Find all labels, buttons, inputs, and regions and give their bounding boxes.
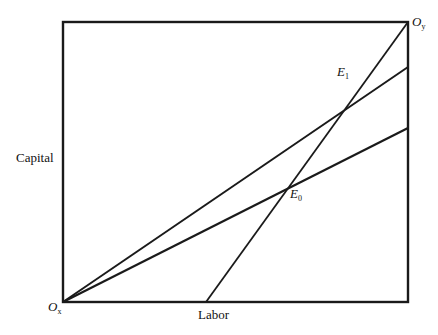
point-e1-sub: 1 [345,72,349,81]
point-e0-main: E [290,186,298,201]
edgeworth-box-diagram [0,0,438,335]
y-axis-label: Capital [16,150,54,166]
origin-y-sub: y [421,22,425,31]
point-e1-main: E [337,64,345,79]
origin-x-main: O [48,299,57,314]
point-e0-label: E0 [290,186,302,203]
origin-y-label: Oy [412,14,425,31]
origin-y-main: O [412,14,421,29]
upper-ray-from-ox [63,67,408,302]
lower-ray-from-ox [63,128,408,302]
x-axis-label: Labor [198,307,229,323]
point-e0-sub: 0 [298,194,302,203]
origin-x-label: Ox [48,299,61,316]
steep-ray-to-oy [206,22,408,302]
origin-x-sub: x [57,307,61,316]
point-e1-label: E1 [337,64,349,81]
